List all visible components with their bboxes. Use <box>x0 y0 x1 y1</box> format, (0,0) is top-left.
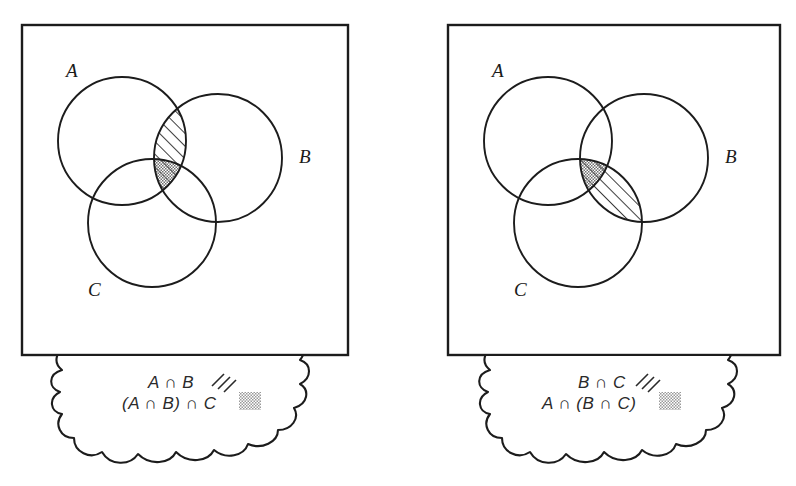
venn-figure: A B C A ∩ B (A ∩ B) ∩ C <box>0 0 796 486</box>
left-label-b: B <box>299 146 311 167</box>
right-circle-b <box>580 94 708 222</box>
left-venn-panel: A B C A ∩ B (A ∩ B) ∩ C <box>20 20 360 463</box>
right-label-c: C <box>514 279 527 300</box>
right-circle-a <box>484 77 612 205</box>
right-venn-panel: A B C B ∩ C A ∩ (B ∩ C) <box>440 20 790 463</box>
left-circle-c <box>88 159 216 287</box>
right-label-b: B <box>725 146 737 167</box>
left-label-c: C <box>88 279 101 300</box>
right-stipple-swatch <box>659 392 681 410</box>
left-cloud-expression-2: (A ∩ B) ∩ C <box>122 394 217 413</box>
right-cloud-expression-2: A ∩ (B ∩ C) <box>541 394 636 413</box>
right-circle-c <box>514 159 642 287</box>
left-stipple-swatch <box>239 392 261 410</box>
venn-figure-canvas: A B C A ∩ B (A ∩ B) ∩ C <box>0 0 796 486</box>
left-label-a: A <box>64 60 78 81</box>
left-cloud-expression-1: A ∩ B <box>147 373 194 392</box>
right-label-a: A <box>490 60 504 81</box>
right-cloud-expression-1: B ∩ C <box>578 373 626 392</box>
